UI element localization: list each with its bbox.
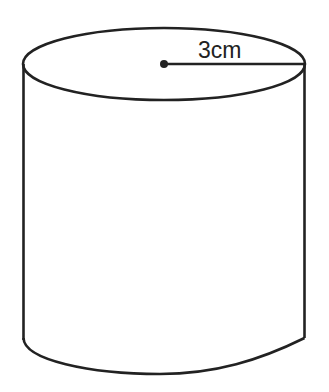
cylinder-diagram: 3cm [0, 0, 329, 392]
center-point [160, 60, 168, 68]
radius-label: 3cm [198, 37, 241, 63]
bottom-curve [24, 338, 305, 374]
